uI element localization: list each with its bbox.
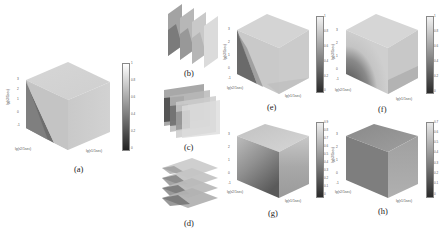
cb-tick: 0	[324, 192, 326, 196]
panel-e: 3 2 1 0 -1 lg(τ3/1sec) lg(τ2/1sec) lg(τ1…	[225, 0, 335, 118]
panel-b: (b)	[160, 0, 225, 80]
caption-c: (c)	[184, 142, 193, 152]
cb-tick: 0.9	[324, 120, 328, 124]
panel-f: 3 2 1 0 -1 lg(τ3/1sec) lg(τ2/1sec) lg(τ1…	[330, 0, 446, 118]
z-tick: 1	[336, 54, 338, 58]
caption-d: (d)	[184, 218, 194, 228]
cb-tick: 0.2	[131, 129, 135, 133]
cb-tick: 0.5	[434, 140, 438, 144]
x-axis-label: lg(τ1/1sec)	[396, 199, 412, 203]
cb-tick: 0.3	[324, 168, 328, 172]
x-axis-label: lg(τ1/1sec)	[396, 97, 412, 101]
cb-tick: 0.7	[434, 120, 438, 124]
cb-tick: 0.2	[434, 171, 438, 175]
cb-tick: 0.2	[324, 74, 328, 78]
z-tick: 2	[228, 40, 230, 44]
cb-tick: 0.4	[324, 59, 328, 63]
caption-e: (e)	[267, 102, 276, 112]
panel-d: (d)	[160, 156, 225, 236]
cb-tick: 0.2	[434, 74, 438, 78]
caption-b: (b)	[184, 68, 194, 78]
z-tick-neg1: -1	[17, 123, 20, 127]
panel-h: 3 2 1 0 -1 lg(τ3/1sec) lg(τ2/1sec) lg(τ1…	[330, 118, 446, 236]
cb-tick: 0.4	[434, 59, 438, 63]
cube-plot-e	[233, 8, 313, 98]
cube-plot-g	[233, 122, 313, 202]
cb-tick: 0.6	[131, 95, 135, 99]
cb-tick: 0.3	[434, 161, 438, 165]
caption-f: (f)	[378, 104, 387, 114]
z-tick: 2	[336, 145, 338, 149]
colorbar-f	[426, 16, 434, 94]
z-tick-0: 0	[17, 110, 19, 114]
z-tick-1: 1	[17, 97, 19, 101]
z-axis-label: lg(τ3/1sec)	[331, 44, 335, 60]
z-tick: 0	[228, 66, 230, 70]
colorbar-e	[316, 16, 324, 93]
cb-tick: 0	[131, 146, 133, 150]
slice-plot-b	[160, 0, 225, 70]
cb-tick: 0.1	[324, 184, 328, 188]
z-tick: -1	[228, 181, 231, 185]
cb-tick: 0.8	[434, 29, 438, 33]
cb-tick: 0.8	[131, 78, 135, 82]
z-tick: 1	[228, 53, 230, 57]
y-axis-label: lg(τ2/1sec)	[335, 88, 351, 92]
z-tick: -1	[336, 77, 339, 81]
caption-g: (g)	[268, 208, 278, 218]
cb-tick: 0.2	[324, 176, 328, 180]
z-tick: 3	[336, 28, 338, 32]
panel-g: 3 2 1 0 -1 lg(τ2/1sec) lg(τ1/1sec) 0.9 0…	[225, 118, 335, 236]
cb-tick: 1	[324, 14, 326, 18]
x-axis-label: lg(τ1/1sec)	[285, 199, 301, 203]
z-tick-2: 2	[17, 87, 19, 91]
z-tick: 1	[336, 158, 338, 162]
z-tick-3: 3	[17, 77, 19, 81]
z-tick: 2	[336, 41, 338, 45]
z-tick: -1	[228, 76, 231, 80]
y-axis-label: lg(τ2/1sec)	[15, 147, 31, 151]
z-tick: 2	[228, 145, 230, 149]
z-axis-label: lg(τ3/1sec)	[331, 147, 335, 163]
cb-tick: 1	[434, 14, 436, 18]
cb-tick: 0.8	[324, 29, 328, 33]
cb-tick: 1	[131, 61, 133, 65]
cube-plot-f	[342, 10, 422, 100]
cb-tick: 0.7	[324, 136, 328, 140]
z-tick: 3	[228, 132, 230, 136]
slice-plot-d	[160, 156, 225, 212]
y-axis-label: lg(τ2/1sec)	[227, 190, 243, 194]
z-axis-label: lg(τ3/1sec)	[6, 89, 10, 105]
z-axis-label: lg(τ3/1sec)	[223, 44, 227, 60]
cb-tick: 0.6	[324, 44, 328, 48]
z-tick: 1	[228, 158, 230, 162]
colorbar-g	[316, 122, 324, 198]
panel-c: (c)	[160, 80, 225, 156]
cb-tick: 0.4	[324, 160, 328, 164]
cb-tick: 0.6	[434, 130, 438, 134]
slice-plot-c	[160, 80, 225, 140]
z-tick: 0	[228, 171, 230, 175]
cb-tick: 0.5	[324, 152, 328, 156]
colorbar-h	[426, 122, 434, 198]
x-axis-label: lg(τ1/1sec)	[86, 149, 102, 153]
cube-plot-a	[18, 60, 118, 155]
cb-tick: 0.4	[131, 112, 135, 116]
z-tick: 3	[336, 132, 338, 136]
caption-a: (a)	[74, 164, 83, 174]
z-tick: 0	[336, 171, 338, 175]
cb-tick: 0.8	[324, 128, 328, 132]
z-tick: 0	[336, 67, 338, 71]
colorbar-a	[122, 63, 130, 151]
cb-tick: 0	[434, 89, 436, 93]
cube-plot-h	[342, 122, 422, 202]
cb-tick: 0.6	[324, 144, 328, 148]
cb-tick: 0.4	[434, 150, 438, 154]
z-tick: 3	[228, 27, 230, 31]
panel-a: 3 2 1 0 -1 lg(τ3/1sec) lg(τ2/1sec) lg(τ1…	[0, 60, 160, 210]
y-axis-label: lg(τ2/1sec)	[335, 190, 351, 194]
cb-tick: 0.6	[434, 44, 438, 48]
z-tick: -1	[336, 181, 339, 185]
x-axis-label: lg(τ1/1sec)	[285, 94, 301, 98]
cb-tick: 0	[434, 192, 436, 196]
